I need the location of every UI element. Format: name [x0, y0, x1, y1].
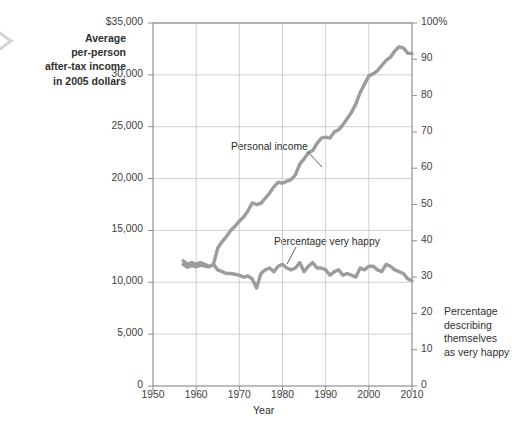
y2-axis-tick-label: 80: [421, 89, 461, 100]
y-axis-tick-label: 20,000: [73, 172, 143, 183]
y2-axis-tick-label: 30: [421, 270, 461, 281]
y-axis-tick-label: 15,000: [73, 223, 143, 234]
y2-axis-tick-label: 20: [421, 306, 461, 317]
y2-axis-tick-label: 60: [421, 161, 461, 172]
chart-figure: Average per-person after-tax income in 2…: [0, 0, 529, 443]
y-axis-tick-label: $35,000: [73, 16, 143, 27]
y-axis-tick-label: 10,000: [73, 275, 143, 286]
plot-area: [0, 0, 529, 443]
series-line-percentage-very-happy: [183, 261, 412, 288]
y2-axis-tick-label: 90: [421, 52, 461, 63]
y2-axis-tick-label: 100%: [421, 16, 461, 27]
y2-axis-tick-label: 50: [421, 198, 461, 209]
y-axis-tick-label: 25,000: [73, 120, 143, 131]
y2-axis-tick-label: 70: [421, 125, 461, 136]
y2-axis-tick-label: 10: [421, 343, 461, 354]
leader-line-percentage-very-happy: [287, 247, 296, 264]
x-axis-tick-label: 2010: [387, 389, 437, 400]
y-axis-tick-label: 30,000: [73, 68, 143, 79]
y2-axis-tick-label: 40: [421, 234, 461, 245]
y-axis-tick-label: 5,000: [73, 327, 143, 338]
leader-line-personal-income: [308, 152, 322, 167]
series-line-personal-income: [183, 47, 412, 267]
